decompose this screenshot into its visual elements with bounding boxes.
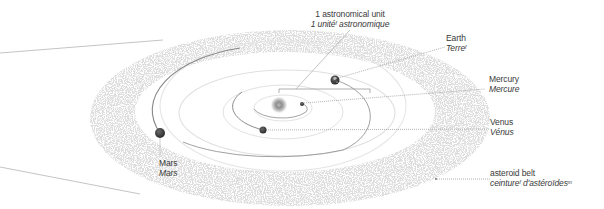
- label-mars: Mars Mars: [159, 158, 178, 178]
- au-label-fr: 1 unitéf astronomique: [290, 19, 410, 29]
- solar-system-diagram: 1 astronomical unit 1 unitéf astronomiqu…: [0, 0, 604, 209]
- venus-planet: [260, 127, 267, 134]
- label-astronomical-unit: 1 astronomical unit 1 unitéf astronomiqu…: [290, 9, 410, 29]
- label-asteroid-belt: asteroid belt ceinturef d'astéroïdesm: [490, 168, 572, 188]
- au-label-en: 1 astronomical unit: [290, 9, 410, 19]
- asteroid-belt-label-fr: ceinturef d'astéroïdesm: [490, 178, 572, 188]
- mercury-label-en: Mercury: [489, 74, 519, 84]
- venus-label-fr: Vénus: [490, 127, 514, 137]
- mercury-label-fr: Mercure: [489, 84, 519, 94]
- label-earth: Earth Terref: [446, 33, 466, 53]
- asteroid-belt-label-en: asteroid belt: [490, 168, 572, 178]
- label-venus: Venus Vénus: [490, 117, 514, 137]
- mars-planet: [155, 128, 165, 138]
- earth-label-fr: Terref: [446, 43, 466, 53]
- mercury-planet: [300, 102, 304, 106]
- asteroid-belt-pointer-dot: [435, 178, 437, 180]
- mars-label-fr: Mars: [159, 168, 178, 178]
- earth-label-en: Earth: [446, 33, 466, 43]
- earth-planet: [331, 76, 340, 85]
- venus-label-en: Venus: [490, 117, 514, 127]
- mars-label-en: Mars: [159, 158, 178, 168]
- label-mercury: Mercury Mercure: [489, 74, 519, 94]
- sun: [270, 96, 288, 114]
